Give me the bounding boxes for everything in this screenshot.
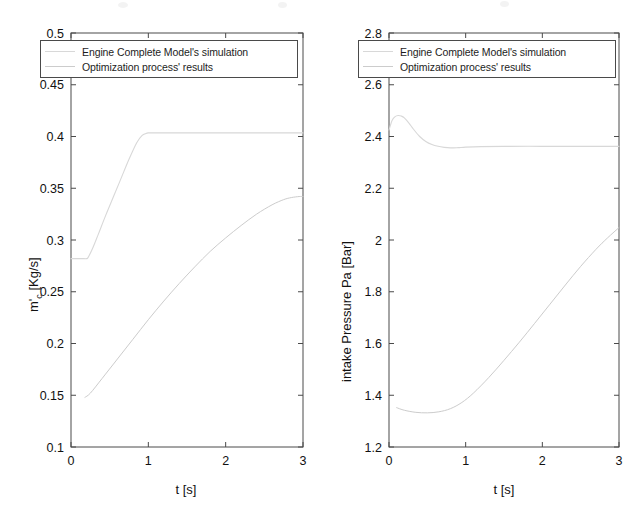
y-tick-label: 0.45 [40,78,64,92]
legend-box: Engine Complete Model's simulation Optim… [40,40,298,78]
legend-box: Engine Complete Model's simulation Optim… [358,40,616,78]
x-axis-label: t [s] [131,482,241,497]
y-tick-label: 0.15 [40,389,64,403]
x-tick-label: 0 [386,454,393,468]
y-axis-label: intake Pressure Pa [Bar] [339,241,354,382]
y-tick-label: 0.4 [47,130,64,144]
x-tick-label: 3 [616,454,623,468]
legend-label-simulation: Engine Complete Model's simulation [82,46,248,58]
y-tick-label: 2.2 [365,182,382,196]
legend-item-optimization: Optimization process' results [45,59,291,74]
x-tick-label: 1 [145,454,152,468]
chart-panel-intake-pressure: 1.21.41.61.822.22.42.62.80123 Engine Com… [315,0,629,519]
x-axis-label: t [s] [449,482,559,497]
y-axis-label-sub: c [34,294,44,299]
scan-artifact [500,1,509,7]
y-tick-label: 1.4 [365,389,382,403]
chart-panel-compressor-mass-flow: 0.10.150.20.250.30.350.40.450.50123 Engi… [0,0,314,519]
x-tick-label: 2 [539,454,546,468]
legend-item-simulation: Engine Complete Model's simulation [45,44,291,59]
legend-swatch-optimization [45,66,75,67]
y-tick-label: 0.5 [47,27,64,41]
figure-container: 0.10.150.20.250.30.350.40.450.50123 Engi… [0,0,629,519]
y-tick-label: 0.3 [47,234,64,248]
y-tick-label: 0.2 [47,337,64,351]
y-axis-label-main: m [26,301,41,312]
x-tick-label: 2 [222,454,229,468]
plot-frame [389,33,619,447]
y-tick-label: 1.2 [365,441,382,455]
y-tick-label: 0.35 [40,182,64,196]
x-tick-label: 3 [300,454,307,468]
y-tick-label: 1.6 [365,337,382,351]
x-tick-label: 0 [68,454,75,468]
y-tick-label: 2.8 [365,27,382,41]
legend-label-optimization: Optimization process' results [82,61,213,73]
y-tick-label: 0.1 [47,441,64,455]
legend-swatch-simulation [363,51,393,52]
y-tick-label: 2.6 [365,78,382,92]
legend-item-simulation: Engine Complete Model's simulation [363,44,609,59]
x-tick-label: 1 [462,454,469,468]
y-tick-label: 1.8 [365,285,382,299]
legend-swatch-optimization [363,66,393,67]
y-tick-label: 2 [375,234,382,248]
y-axis-label-unit: [Kg/s] [26,257,41,294]
legend-label-optimization: Optimization process' results [400,61,531,73]
y-axis-label: m'c [Kg/s] [26,257,44,312]
legend-label-simulation: Engine Complete Model's simulation [400,46,566,58]
scan-artifact [118,2,128,8]
scan-artifact [278,2,287,8]
y-tick-label: 2.4 [365,130,382,144]
plot-frame [71,33,303,447]
legend-item-optimization: Optimization process' results [363,59,609,74]
legend-swatch-simulation [45,51,75,52]
